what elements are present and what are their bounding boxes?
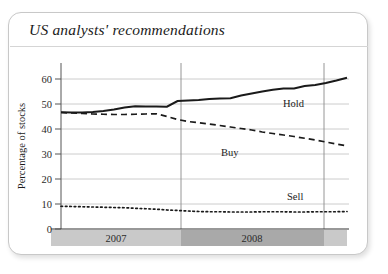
series-line-hold [61, 78, 347, 113]
y-tick-label-0: 0 [47, 224, 52, 235]
y-tick-label-30: 30 [42, 149, 53, 160]
series-label-buy: Buy [221, 147, 239, 158]
y-tick-label-20: 20 [42, 174, 53, 185]
y-tick-label-40: 40 [42, 124, 53, 135]
year-band-trailing [324, 230, 347, 246]
y-axis-ticks [55, 79, 61, 229]
y-tick-label-60: 60 [42, 74, 53, 85]
series-label-sell: Sell [287, 191, 303, 202]
y-axis-title: Percentage of stocks [16, 103, 27, 189]
horizontal-gridlines [61, 79, 349, 204]
x-band-label-2008: 2008 [242, 233, 263, 244]
chart-card: US analysts' recommendations [8, 12, 368, 255]
chart-plot: 60 50 40 30 20 10 0 Percentage of stocks… [9, 13, 369, 256]
y-tick-label-10: 10 [42, 199, 53, 210]
y-tick-label-50: 50 [42, 99, 53, 110]
series-line-sell [61, 206, 347, 212]
x-band-label-2007: 2007 [106, 233, 127, 244]
series-label-hold: Hold [283, 98, 305, 109]
